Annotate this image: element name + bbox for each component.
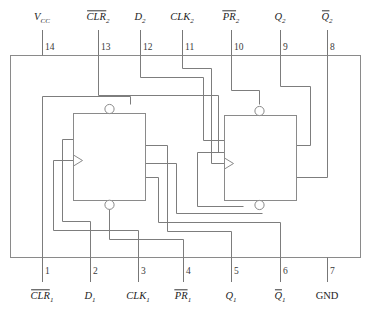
top-signal-labels: VCCCLR2D2CLK2PR2Q2Q2 [34, 11, 333, 25]
wire-pin4-to-ff1-preset [110, 209, 184, 258]
signal-label-text: VCC [34, 11, 50, 25]
pin-number-6: 6 [283, 266, 288, 276]
flip-flop-2-body [225, 116, 297, 201]
wire-pin5-to-ff1-q [145, 146, 232, 258]
pin-number-13: 13 [101, 42, 111, 52]
pin-number-5: 5 [234, 266, 239, 276]
top-pin-numbers: 14 13 12 11 10 9 8 [45, 42, 335, 52]
pin-number-9: 9 [283, 42, 288, 52]
signal-label-bottom-pin-1: CLR1 [31, 290, 54, 304]
bottom-pin-numbers: 1 2 3 4 5 6 7 [45, 266, 335, 276]
signal-label-text: CLK1 [126, 290, 149, 304]
signal-label-top-pin-11: CLK2 [170, 11, 194, 25]
flip-flop-1 [74, 104, 146, 209]
bottom-signal-labels: CLR1D1CLK1PR1Q1Q1GND [31, 290, 339, 304]
pin-number-1: 1 [45, 266, 50, 276]
wire-ff2-lower-route [198, 153, 244, 207]
pin-number-7: 7 [330, 266, 335, 276]
signal-label-bottom-pin-4: PR1 [174, 290, 191, 304]
signal-label-top-pin-8: Q2 [321, 11, 333, 25]
wire-pin10-to-ff2-preset [232, 56, 260, 105]
flip-flop-1-preset-bubble-icon [105, 200, 114, 209]
internal-wiring [43, 56, 328, 258]
wire-pin6-to-ff1-qbar [145, 178, 281, 258]
signal-label-text: D1 [83, 290, 95, 304]
flip-flop-1-clear-bubble-icon [105, 104, 114, 113]
wire-pin1-to-ff1-clear [43, 97, 131, 258]
pin-number-4: 4 [186, 266, 191, 276]
flip-flop-2 [225, 106, 297, 209]
signal-label-top-pin-13: CLR2 [87, 11, 110, 25]
flip-flop-2-clock-wedge-icon [225, 158, 234, 169]
signal-label-text: CLK2 [170, 11, 194, 25]
wire-pin13-to-ff2-clear [99, 56, 225, 153]
signal-label-top-pin-10: PR2 [222, 11, 240, 25]
signal-label-text: GND [316, 290, 339, 301]
signal-label-bottom-pin-6: Q1 [274, 290, 285, 304]
pin-number-10: 10 [234, 42, 244, 52]
signal-label-text: CLR1 [31, 290, 54, 304]
pinout-diagram-canvas: 14 13 12 11 10 9 8 1 2 3 4 5 6 7 VCCCLR2… [0, 0, 372, 313]
pinout-diagram: 14 13 12 11 10 9 8 1 2 3 4 5 6 7 VCCCLR2… [0, 0, 372, 313]
signal-label-text: Q2 [321, 11, 333, 25]
flip-flop-2-preset-bubble-icon [255, 106, 264, 115]
wire-pin9-to-ff2-q [281, 56, 311, 146]
signal-label-top-pin-12: D2 [133, 11, 146, 25]
flip-flop-2-clear-bubble-icon [255, 200, 264, 209]
signal-label-text: PR1 [174, 290, 191, 304]
signal-label-bottom-pin-3: CLK1 [126, 290, 149, 304]
signal-label-top-pin-9: Q2 [274, 11, 286, 25]
signal-label-bottom-pin-7: GND [316, 290, 339, 301]
pin-number-14: 14 [45, 42, 55, 52]
signal-label-top-pin-14: VCC [34, 11, 50, 25]
signal-label-text: D2 [133, 11, 146, 25]
signal-label-text: Q1 [274, 290, 285, 304]
pin-number-2: 2 [93, 266, 98, 276]
wire-pin8-to-ff2-qbar [296, 56, 328, 178]
signal-label-text: Q2 [274, 11, 286, 25]
pin-number-3: 3 [141, 266, 146, 276]
pin-number-11: 11 [185, 42, 194, 52]
signal-label-bottom-pin-2: D1 [83, 290, 95, 304]
signal-label-bottom-pin-5: Q1 [225, 290, 236, 304]
flip-flop-1-body [74, 114, 146, 201]
signal-label-text: PR2 [222, 11, 240, 25]
pin-number-8: 8 [330, 42, 335, 52]
wire-pin3-to-ff1-clk [54, 161, 139, 258]
signal-label-text: Q1 [225, 290, 236, 304]
pin-number-12: 12 [143, 42, 153, 52]
flip-flop-1-clock-wedge-icon [74, 155, 83, 166]
signal-label-text: CLR2 [87, 11, 110, 25]
